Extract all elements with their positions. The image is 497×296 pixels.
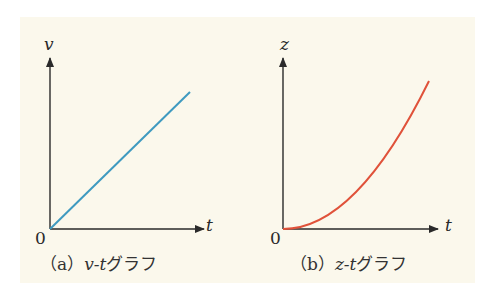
z-t-curve <box>283 81 429 229</box>
caption-b-var: z-t <box>335 254 357 274</box>
origin-label-b: 0 <box>270 228 281 248</box>
caption-a-prefix: （a） <box>40 254 84 274</box>
caption-b-suffix: グラフ <box>356 254 407 274</box>
caption-a-suffix: グラフ <box>106 254 157 274</box>
y-axis-label-b: z <box>280 34 289 54</box>
origin-label-a: 0 <box>35 228 46 248</box>
caption-b-prefix: （b） <box>290 254 335 274</box>
graph-a <box>50 58 204 229</box>
v-t-line <box>50 92 190 229</box>
x-axis-label-a: t <box>206 215 213 235</box>
caption-a-var: v-t <box>84 254 106 274</box>
caption-b: （b）z-tグラフ <box>290 250 407 275</box>
graph-b <box>283 58 438 229</box>
x-axis-label-b: t <box>445 215 452 235</box>
caption-a: （a）v-tグラフ <box>40 250 157 275</box>
y-axis-label-a: v <box>44 34 54 54</box>
